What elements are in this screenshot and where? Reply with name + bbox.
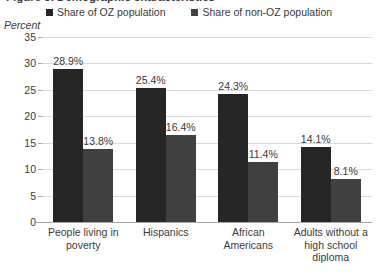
y-axis-tick-label: 20 (10, 111, 36, 122)
square-marker-icon (46, 9, 53, 16)
x-axis-category-label: Adults without ahigh schooldiploma (290, 226, 373, 264)
plot-area: 28.9%13.8%25.4%16.4%24.3%11.4%14.1%8.1% (42, 37, 372, 222)
chart-title-text: Figure 3. Demographic characteristics (6, 0, 215, 3)
bar-value-label: 11.4% (242, 149, 284, 160)
bar[interactable] (301, 147, 331, 222)
y-axis-tick-label: 15 (10, 137, 36, 148)
x-axis-category-label: Hispanics (125, 226, 208, 239)
x-axis-category-label: People living inpoverty (42, 226, 125, 251)
legend-item-non-oz[interactable]: Share of non-OZ population (191, 7, 332, 18)
gridline (42, 37, 372, 38)
gridline (42, 90, 372, 91)
category-label-line: high school (290, 239, 373, 252)
category-label-line: Americans (207, 239, 290, 252)
bar[interactable] (136, 88, 166, 222)
y-axis-tick-label: 35 (10, 32, 36, 43)
category-label-line: People living in (42, 226, 125, 239)
x-axis-line (34, 222, 372, 223)
category-label-line: African (207, 226, 290, 239)
x-axis-category-label: AfricanAmericans (207, 226, 290, 251)
category-label-line: Hispanics (125, 226, 208, 239)
bar-value-label: 16.4% (160, 122, 202, 133)
legend-label-non-oz: Share of non-OZ population (202, 7, 332, 18)
y-axis-tick-label: 25 (10, 85, 36, 96)
bar-value-label: 14.1% (295, 134, 337, 145)
gridline (42, 63, 372, 64)
x-axis-category-labels: People living inpovertyHispanicsAfricanA… (42, 226, 372, 276)
bar[interactable] (166, 135, 196, 222)
y-axis-tick-label: 10 (10, 164, 36, 175)
bar[interactable] (83, 149, 113, 222)
legend-label-oz: Share of OZ population (57, 7, 166, 18)
y-axis-tick-label: 0 (10, 217, 36, 228)
y-axis-tick-label: 5 (10, 190, 36, 201)
category-label-line: poverty (42, 239, 125, 252)
bar[interactable] (331, 179, 361, 222)
category-label-line: diploma (290, 251, 373, 264)
legend-item-oz[interactable]: Share of OZ population (46, 7, 166, 18)
bar-value-label: 24.3% (212, 81, 254, 92)
y-axis-tick-label: 30 (10, 58, 36, 69)
bar-value-label: 25.4% (130, 75, 172, 86)
gridline (42, 116, 372, 117)
bar-value-label: 8.1% (325, 166, 367, 177)
chart-legend: Share of OZ population Share of non-OZ p… (0, 5, 378, 19)
y-axis-title: Percent (4, 19, 40, 31)
bar-value-label: 28.9% (47, 56, 89, 67)
bar-value-label: 13.8% (77, 136, 119, 147)
bar[interactable] (248, 162, 278, 222)
square-marker-icon (191, 9, 198, 16)
category-label-line: Adults without a (290, 226, 373, 239)
